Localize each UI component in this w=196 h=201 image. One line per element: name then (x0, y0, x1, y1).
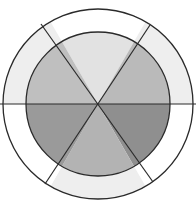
sector-wheel-diagram (0, 0, 196, 201)
